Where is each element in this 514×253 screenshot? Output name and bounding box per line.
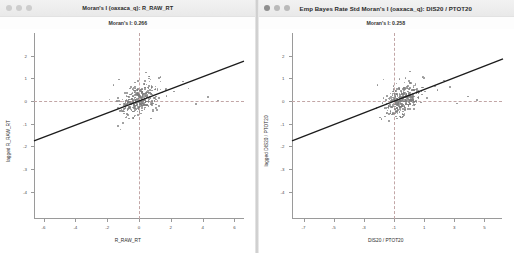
- y-tick-label: 0: [25, 99, 27, 104]
- y-tick-label: -3: [281, 167, 285, 172]
- x-tick: [454, 219, 455, 222]
- y-tick-label: 0: [282, 99, 284, 104]
- moran-fit-line: [292, 33, 503, 219]
- minimize-button-icon[interactable]: [274, 5, 280, 11]
- x-tick-label: 2: [170, 225, 172, 230]
- window-moran-ebrate[interactable]: Emp Bayes Rate Std Moran's I (oaxaca_q):…: [257, 0, 514, 253]
- x-tick: [304, 219, 305, 222]
- x-tick-label: -4: [73, 225, 77, 230]
- y-tick-label: 2: [25, 53, 27, 58]
- zoom-button-icon[interactable]: [26, 5, 32, 11]
- x-tick-label: 3: [453, 225, 455, 230]
- x-tick-label: -6: [42, 225, 46, 230]
- x-tick: [484, 219, 485, 222]
- window-title-left: Moran's I (oaxaca_q): R_RAW_RT: [0, 5, 256, 11]
- close-button-icon[interactable]: [6, 5, 12, 11]
- x-tick: [424, 219, 425, 222]
- moran-fit-line: [34, 33, 244, 219]
- chart-subtitle-left: Moran's I: 0.266: [0, 17, 256, 29]
- minimize-button-icon[interactable]: [16, 5, 22, 11]
- x-axis-label-right: DIS20 / PTOT20: [368, 238, 403, 243]
- y-tick-label: -1: [23, 121, 27, 126]
- scatter-plot-left[interactable]: -6-4-20246210-1-2-3-4: [34, 33, 244, 219]
- titlebar-left[interactable]: Moran's I (oaxaca_q): R_RAW_RT: [0, 0, 256, 17]
- x-tick-label: -2: [105, 225, 109, 230]
- y-axis-label-left: lagged R_RAW_RT: [6, 120, 11, 162]
- y-tick-label: -1: [281, 121, 285, 126]
- x-tick-label: -1: [392, 225, 396, 230]
- window-moran-raw[interactable]: Moran's I (oaxaca_q): R_RAW_RT Moran's I…: [0, 0, 257, 253]
- traffic-lights-right[interactable]: [264, 5, 290, 11]
- y-tick-label: 1: [282, 76, 284, 81]
- x-tick: [234, 219, 235, 222]
- y-tick-label: 1: [25, 76, 27, 81]
- x-tick: [334, 219, 335, 222]
- y-tick-label: -2: [23, 144, 27, 149]
- x-tick-label: 6: [233, 225, 235, 230]
- x-tick-label: -3: [362, 225, 366, 230]
- x-tick-label: 1: [423, 225, 425, 230]
- plot-area-right[interactable]: -7-5-3-1135210-1-2-3-4 DIS20 / PTOT20 la…: [258, 29, 514, 253]
- x-tick-label: 5: [483, 225, 485, 230]
- x-tick: [394, 219, 395, 222]
- scatter-plot-right[interactable]: -7-5-3-1135210-1-2-3-4: [292, 33, 503, 219]
- x-tick: [364, 219, 365, 222]
- chart-subtitle-right: Moran's I: 0.258: [258, 17, 514, 29]
- y-tick-label: 2: [282, 53, 284, 58]
- y-tick-label: -3: [23, 167, 27, 172]
- y-tick-label: -4: [281, 189, 285, 194]
- titlebar-right[interactable]: Emp Bayes Rate Std Moran's I (oaxaca_q):…: [258, 0, 514, 17]
- traffic-lights-left[interactable]: [6, 5, 32, 11]
- x-tick-label: -7: [302, 225, 306, 230]
- x-tick: [75, 219, 76, 222]
- x-tick-label: 0: [138, 225, 140, 230]
- window-seam: [255, 0, 259, 253]
- y-axis-label-right: lagged DIS20 / PTOT20: [263, 115, 268, 166]
- x-tick: [107, 219, 108, 222]
- y-tick-label: -4: [23, 189, 27, 194]
- zoom-button-icon[interactable]: [284, 5, 290, 11]
- plot-area-left[interactable]: -6-4-20246210-1-2-3-4 R_RAW_RT lagged R_…: [0, 29, 256, 253]
- x-tick: [171, 219, 172, 222]
- desktop: Moran's I (oaxaca_q): R_RAW_RT Moran's I…: [0, 0, 514, 253]
- x-tick-label: -5: [332, 225, 336, 230]
- x-tick: [203, 219, 204, 222]
- y-tick-label: -2: [281, 144, 285, 149]
- x-tick: [44, 219, 45, 222]
- x-axis-label-left: R_RAW_RT: [115, 238, 141, 243]
- x-tick: [139, 219, 140, 222]
- window-title-right: Emp Bayes Rate Std Moran's I (oaxaca_q):…: [258, 5, 514, 12]
- close-button-icon[interactable]: [264, 5, 270, 11]
- x-tick-label: 4: [201, 225, 203, 230]
